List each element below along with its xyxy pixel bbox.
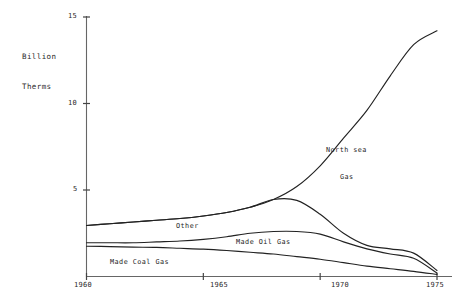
series-label-north-sea-gas-line-1: North sea [326, 146, 367, 155]
chart-container: Billion Therms 15 10 5 1960 1965 1970 19… [0, 0, 460, 299]
series-label-north-sea-gas-line-2: Gas [340, 173, 367, 182]
series-label-other: Other [176, 222, 199, 231]
x-tick-label-1960: 1960 [74, 281, 92, 289]
y-tick-label-15: 15 [68, 12, 77, 20]
y-tick-label-10: 10 [68, 99, 77, 107]
y-axis-title-line-2: Therms [22, 82, 56, 92]
series-path-total-incl-north-sea-gas [87, 31, 438, 226]
series-label-made-coal-gas: Made Coal Gas [110, 258, 169, 267]
x-tick-label-1970: 1970 [331, 281, 349, 289]
x-tick-label-1965: 1965 [210, 281, 228, 289]
x-tick-label-1975: 1975 [426, 281, 444, 289]
y-axis-title: Billion Therms [22, 32, 56, 112]
series-label-made-oil-gas: Made Oil Gas [236, 238, 291, 247]
y-tick-label-5: 5 [73, 185, 78, 193]
series-label-north-sea-gas: North sea Gas [326, 128, 367, 200]
y-axis-title-line-1: Billion [22, 52, 56, 62]
chart-plot-area [0, 0, 460, 299]
